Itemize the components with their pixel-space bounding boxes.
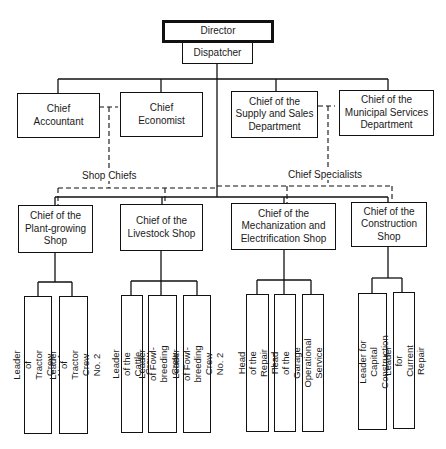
director-label: Director: [200, 25, 235, 38]
chief-supply-sales-box: Chief of the Supply and Sales Department: [231, 91, 318, 138]
chief-construction-label: Chief of the Construction Shop: [361, 206, 417, 244]
unit-fowl-crew-2-label: Leader of Fowl-breeding Crew No. 2: [170, 346, 225, 383]
unit-tractor-crew-2-label: Leader of Tractor Crew No. 2: [46, 350, 101, 380]
unit-current-repair: Leader for Current Repair: [393, 292, 415, 429]
chief-plant-growing-label: Chief of the Plant-growing Shop: [25, 210, 86, 248]
unit-current-repair-label: Leader for Current Repair: [382, 345, 426, 377]
chief-municipal-services-label: Chief of the Municipal Services Departme…: [345, 94, 428, 132]
chief-livestock-box: Chief of the Livestock Shop: [120, 204, 203, 251]
chief-municipal-services-box: Chief of the Municipal Services Departme…: [339, 90, 434, 136]
chief-economist-box: Chief Economist: [120, 92, 203, 137]
chief-plant-growing-box: Chief of the Plant-growing Shop: [18, 205, 93, 253]
chief-supply-sales-label: Chief of the Supply and Sales Department: [236, 96, 314, 134]
unit-garage-label: Head of the Garage: [269, 347, 302, 379]
dispatcher-label: Dispatcher: [194, 47, 242, 60]
dispatcher-box: Dispatcher: [182, 42, 253, 64]
unit-fowl-crew-2: Leader of Fowl-breeding Crew No. 2: [183, 295, 211, 433]
unit-operational-service: Operational Service: [302, 294, 324, 432]
chief-mechanization-box: Chief of the Mechanization and Electrifi…: [231, 203, 336, 250]
chief-specialists-label: Chief Specialists: [288, 169, 362, 180]
unit-garage: Head of the Garage: [274, 294, 296, 432]
chief-accountant-box: Chief Accountant: [17, 93, 100, 138]
chief-livestock-label: Chief of the Livestock Shop: [128, 215, 196, 240]
chief-economist-label: Chief Economist: [138, 102, 185, 127]
chief-construction-box: Chief of the Construction Shop: [351, 202, 427, 247]
unit-repair-shop: Head of the Repair Shop: [246, 294, 269, 432]
shop-chiefs-label: Shop Chiefs: [82, 170, 136, 181]
unit-tractor-crew-2: Leader of Tractor Crew No. 2: [59, 296, 88, 434]
chief-mechanization-label: Chief of the Mechanization and Electrifi…: [241, 208, 327, 246]
chief-accountant-label: Chief Accountant: [33, 103, 83, 128]
director-box: Director: [162, 20, 274, 43]
unit-operational-service-label: Operational Service: [302, 338, 324, 387]
